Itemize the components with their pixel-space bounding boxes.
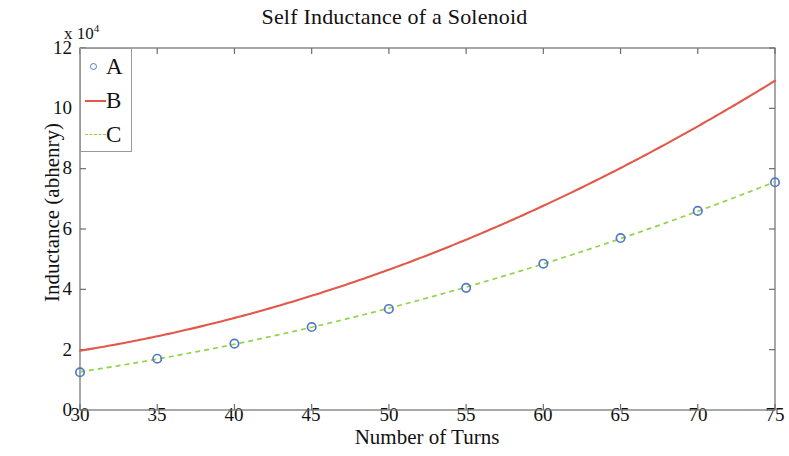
chart-legend: A B C	[80, 48, 132, 152]
chart-figure: Self Inductance of a Solenoid x 104 Indu…	[0, 0, 789, 456]
legend-label: B	[106, 84, 132, 118]
open-circle-marker-icon	[84, 50, 106, 84]
legend-label: A	[106, 50, 132, 84]
legend-item-a: A	[81, 50, 133, 84]
dashed-line-icon	[84, 118, 106, 152]
legend-label: C	[106, 118, 132, 152]
legend-item-b: B	[81, 84, 133, 118]
solid-line-icon	[84, 84, 106, 118]
legend-item-c: C	[81, 118, 133, 152]
